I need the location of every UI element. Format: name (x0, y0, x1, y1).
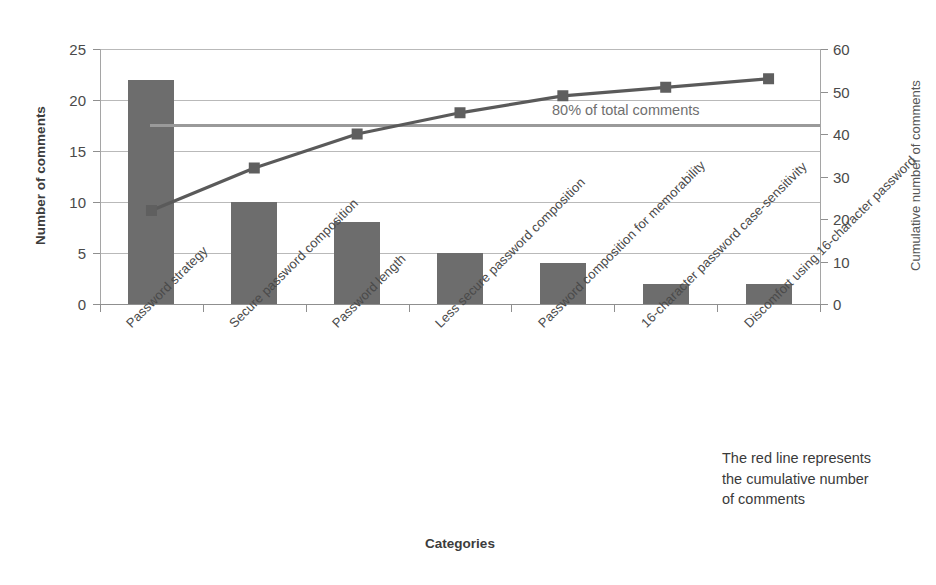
reference-line-label: 80% of total comments (552, 102, 700, 118)
x-axis-tick (717, 305, 718, 312)
y-axis-left-tick-label: 15 (52, 144, 86, 159)
y-axis-right-tick (821, 134, 828, 135)
y-axis-left-tick (93, 304, 100, 305)
y-axis-left-tick-label: 20 (52, 93, 86, 108)
y-axis-right-tick-label: 60 (833, 42, 867, 57)
chart-annotation: The red line represents the cumulative n… (722, 448, 922, 510)
x-axis-tick (820, 305, 821, 312)
y-axis-right-tick-label: 50 (833, 85, 867, 100)
y-axis-right-tick-label: 30 (833, 170, 867, 185)
gridline (100, 202, 820, 203)
y-axis-right-tick-label: 10 (833, 255, 867, 270)
y-axis-right-tick (821, 92, 828, 93)
y-axis-right-tick-label: 40 (833, 127, 867, 142)
gridline (100, 151, 820, 152)
y-axis-left-tick (93, 253, 100, 254)
y-axis-right-tick (821, 177, 828, 178)
y-axis-left-tick-label: 25 (52, 42, 86, 57)
annotation-line-3: of comments (722, 489, 922, 510)
y-axis-left-tick-label: 0 (52, 297, 86, 312)
y-axis-left-tick (93, 49, 100, 50)
x-axis-tick (614, 305, 615, 312)
y-axis-left-tick-label: 10 (52, 195, 86, 210)
reference-line-80-percent (150, 124, 820, 127)
x-axis-tick (100, 305, 101, 312)
y-axis-left-title: Number of comments (33, 96, 48, 256)
x-axis-tick (306, 305, 307, 312)
y-axis-left-tick (93, 100, 100, 101)
y-axis-left-line (100, 49, 101, 305)
annotation-line-2: the cumulative number (722, 469, 922, 490)
y-axis-right-tick (821, 219, 828, 220)
y-axis-left-tick (93, 151, 100, 152)
y-axis-left-tick (93, 202, 100, 203)
x-axis-title: Categories (380, 536, 540, 551)
y-axis-right-title: Cumulative number of comments (908, 66, 923, 286)
y-axis-right-tick (821, 49, 828, 50)
y-axis-right-tick (821, 304, 828, 305)
y-axis-right-tick (821, 262, 828, 263)
gridline (100, 100, 820, 101)
gridline (100, 49, 820, 50)
x-axis-tick (203, 305, 204, 312)
annotation-line-1: The red line represents (722, 448, 922, 469)
pareto-chart: 80% of total comments 051015202501020304… (0, 0, 936, 585)
x-axis-tick (511, 305, 512, 312)
bar (128, 80, 174, 304)
y-axis-right-tick-label: 0 (833, 297, 867, 312)
x-axis-tick (409, 305, 410, 312)
y-axis-left-tick-label: 5 (52, 246, 86, 261)
